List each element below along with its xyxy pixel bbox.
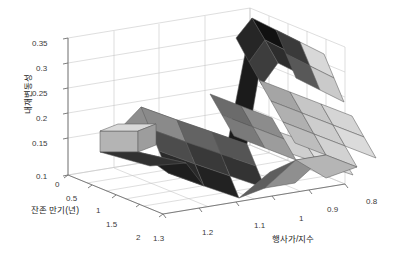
- z-axis-title: 내재변동성: [21, 55, 33, 133]
- y-axis-title: 행사가/지수: [272, 234, 314, 244]
- surface-plot-canvas: [0, 0, 395, 266]
- y-tick-label: 1.3: [153, 234, 164, 243]
- z-axis-title-text: 내재변동성: [21, 74, 33, 114]
- z-tick-label: 0.25: [32, 89, 48, 98]
- z-tick-label: 0.2: [36, 114, 47, 123]
- x-tick-label: 2: [136, 233, 140, 242]
- z-tick-label: 0.3: [36, 64, 47, 73]
- x-tick-label: 1: [96, 206, 100, 215]
- x-tick-label: 0.5: [66, 194, 77, 203]
- z-tick-label: 0.35: [32, 39, 48, 48]
- y-tick-label: 0.9: [327, 205, 338, 214]
- x-axis-title: 잔존 만기(년): [31, 205, 79, 215]
- x-tick-label: 0: [55, 180, 59, 189]
- y-tick-label: 1.1: [254, 221, 265, 230]
- z-tick-label: 0.1: [36, 172, 47, 181]
- y-tick-label: 0.8: [366, 197, 377, 206]
- y-tick-label: 1.2: [202, 228, 213, 237]
- x-tick-label: 1.5: [106, 220, 117, 229]
- y-tick-label: 1: [299, 214, 303, 223]
- surface-mesh: [100, 18, 376, 198]
- z-tick-label: 0.15: [32, 139, 48, 148]
- volatility-surface-figure: 0.35 0.3 0.25 0.2 0.15 0.1 0 0.5 1 1.5 2…: [0, 0, 395, 266]
- x-axis-spine: [68, 175, 163, 214]
- z-tick-marks: [63, 38, 68, 176]
